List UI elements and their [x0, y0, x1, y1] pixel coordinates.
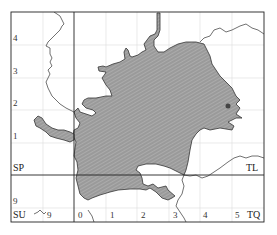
easting-label-1: 1: [110, 211, 115, 220]
easting-label-9: 9: [47, 211, 52, 220]
northing-label-1: 1: [13, 132, 18, 141]
dark-spot: [226, 104, 231, 109]
grid-square-sp: SP: [13, 163, 24, 173]
northing-label-2: 2: [13, 99, 18, 108]
grid-square-tq: TQ: [247, 210, 260, 220]
northing-label-3: 3: [13, 67, 18, 76]
shaded-region: [73, 13, 242, 200]
easting-label-3: 3: [173, 211, 178, 220]
easting-label-2: 2: [141, 211, 146, 220]
distribution-map: [0, 0, 277, 235]
grid-square-tl: TL: [246, 163, 258, 173]
easting-label-0: 0: [78, 211, 83, 220]
northing-label-9: 9: [13, 197, 18, 206]
northing-label-4: 4: [13, 34, 18, 43]
grid-square-su: SU: [13, 210, 26, 220]
easting-label-4: 4: [203, 211, 208, 220]
easting-label-5: 5: [235, 211, 240, 220]
shaded-region-west: [34, 116, 74, 142]
